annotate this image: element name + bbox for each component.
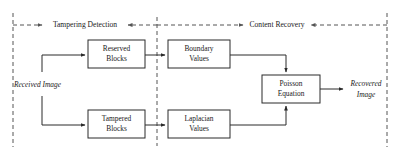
block-boundary-values-line2: Values	[189, 54, 209, 63]
block-tampered-blocks[interactable]: Tampered Blocks	[88, 110, 145, 138]
phase-label-tampering-detection: Tampering Detection	[53, 20, 117, 29]
figure-canvas: Tampering Detection Content Recovery Rec…	[0, 0, 401, 158]
block-reserved-blocks-line2: Blocks	[106, 54, 127, 63]
block-reserved-blocks[interactable]: Reserved Blocks	[88, 40, 145, 68]
block-boundary-values[interactable]: Boundary Values	[168, 40, 230, 68]
block-tampered-blocks-line1: Tampered	[102, 114, 132, 123]
phase-label-content-recovery: Content Recovery	[249, 20, 304, 29]
flow-diagram: Tampering Detection Content Recovery Rec…	[0, 0, 401, 158]
block-reserved-blocks-line1: Reserved	[103, 44, 131, 53]
block-boundary-values-line1: Boundary	[184, 44, 213, 53]
block-laplacian-values[interactable]: Laplacian Values	[168, 110, 230, 138]
output-label-recovered-image-line2: Image	[356, 90, 376, 99]
output-label-recovered-image: Recovered Image	[350, 79, 382, 99]
output-label-recovered-image-line1: Recovered	[350, 79, 382, 88]
block-poisson-equation[interactable]: Poisson Equation	[262, 75, 320, 103]
connector-received-to-reserved	[42, 55, 85, 72]
connector-boundary-to-poisson	[230, 55, 286, 72]
connector-received-to-tampered	[42, 96, 85, 125]
block-poisson-equation-line2: Equation	[278, 89, 305, 98]
input-branch-lines	[42, 55, 85, 125]
block-tampered-blocks-line2: Blocks	[106, 124, 127, 133]
block-poisson-equation-line1: Poisson	[279, 79, 302, 88]
block-laplacian-values-line1: Laplacian	[184, 114, 213, 123]
connector-laplacian-to-poisson	[230, 106, 286, 125]
input-label-received-image: Received Image	[13, 80, 62, 89]
block-laplacian-values-line2: Values	[189, 124, 209, 133]
